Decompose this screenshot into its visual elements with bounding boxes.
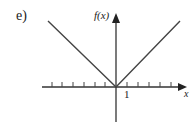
x-axis-arrow-icon <box>178 83 187 91</box>
abs-function-curve <box>48 21 180 87</box>
y-axis-arrow-icon <box>112 13 120 23</box>
graph <box>0 0 194 128</box>
